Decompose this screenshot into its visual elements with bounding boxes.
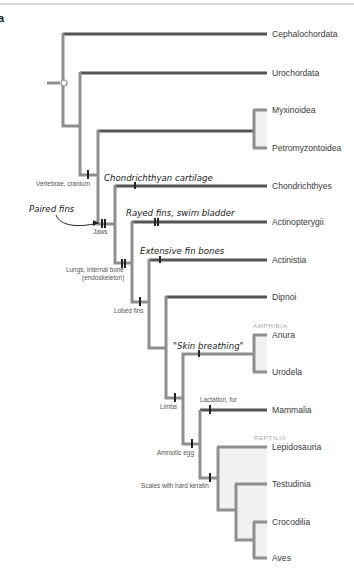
taxon-label: Crocodilia <box>272 517 310 527</box>
tick-skin-icon <box>198 350 200 357</box>
taxon-label: Urochordata <box>272 68 320 78</box>
tick-chondrichthyan-icon <box>134 182 136 189</box>
tick-extensive-icon <box>159 256 161 263</box>
taxon-label: Actinistia <box>272 255 307 265</box>
node-mammal-reptile <box>200 410 218 478</box>
taxon-label: Lepidosauria <box>272 442 321 452</box>
node-amniota <box>183 398 200 444</box>
taxon-label: Aves <box>272 553 291 563</box>
paired-fins-arrow-icon <box>56 215 98 226</box>
amphibia-shade <box>254 335 267 372</box>
annotation-chondrichthyan-cartilage: Chondrichthyan cartilage <box>104 173 213 183</box>
tick-jaws-icon-1 <box>101 219 103 228</box>
cyclostome-shade <box>254 110 267 148</box>
group-label-amphibia: AMPHIBIA <box>253 322 288 329</box>
taxon-label: Dipnoi <box>272 292 296 302</box>
group-label-reptilia: REPTILIA <box>254 434 287 441</box>
tick-scales-icon <box>209 473 211 482</box>
trait-labels: Vertebrae, cranium Jaws Lungs, internal … <box>36 180 238 489</box>
taxon-label: Anura <box>272 330 295 340</box>
tick-lactation-icon <box>209 405 211 414</box>
tick-rayed-icon-2 <box>157 218 159 226</box>
tick-rayed-icon-1 <box>154 218 156 226</box>
tick-vertebrae-icon <box>87 170 89 179</box>
node-sarcopterygii <box>149 259 166 348</box>
trait-lungs-line2: (endoskeleton) <box>82 274 124 282</box>
tick-lobed-icon <box>139 297 141 306</box>
taxon-labels: Cephalochordata Urochordata Myxinoidea P… <box>272 29 341 563</box>
tick-jaws-icon-2 <box>104 219 106 228</box>
tick-lungs-icon-2 <box>124 259 126 268</box>
taxon-label: Myxinoidea <box>272 105 316 115</box>
taxon-label: Cephalochordata <box>272 29 338 39</box>
trait-lactation: Lactation, fur <box>200 396 238 403</box>
node-olfactores <box>80 72 98 175</box>
node-gnathostomata <box>115 185 132 263</box>
taxon-label: Actinopterygii <box>272 217 324 227</box>
trait-scales: Scales with hard keratin <box>141 482 209 489</box>
taxon-label: Urodela <box>272 367 302 377</box>
root-node-icon <box>61 80 67 86</box>
taxon-label: Chondrichthyes <box>272 181 332 191</box>
annotation-paired-fins: Paired fins <box>29 204 75 214</box>
panel-label: a <box>0 12 5 24</box>
annotation-rayed-fins: Rayed fins, swim bladder <box>126 208 235 218</box>
annotation-skin-breathing: "Skin breathing" <box>173 341 244 351</box>
trait-jaws: Jaws <box>93 228 108 235</box>
taxon-label: Mammalia <box>272 405 312 415</box>
cladogram-figure: a <box>0 0 354 578</box>
taxon-label: Petromyzontoidea <box>272 143 341 153</box>
annotations: Chondrichthyan cartilage Rayed fins, swi… <box>29 173 244 351</box>
trait-lobed-fins: Lobed fins <box>114 307 144 314</box>
trait-vertebrae: Vertebrae, cranium <box>36 180 90 187</box>
tick-limbs-icon <box>174 393 176 402</box>
trait-amniotic-egg: Amniotic egg <box>157 449 194 457</box>
branch-amphibia <box>183 354 254 398</box>
annotation-extensive-fin-bones: Extensive fin bones <box>140 246 225 256</box>
trait-lungs-line1: Lungs, internal bone <box>66 266 124 274</box>
root-vertical <box>63 33 80 126</box>
node-osteichthyes <box>132 221 149 302</box>
trait-limbs: Limbs <box>160 403 177 410</box>
taxon-label: Testudinia <box>272 479 311 489</box>
tick-amniotic-icon <box>191 439 193 448</box>
